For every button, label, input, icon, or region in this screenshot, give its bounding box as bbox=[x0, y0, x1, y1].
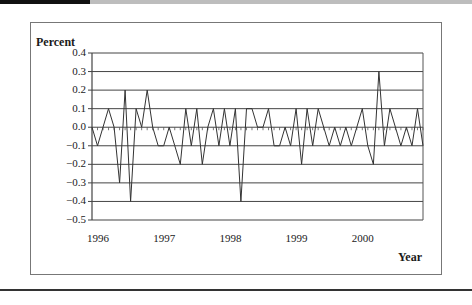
data-series-line bbox=[92, 72, 423, 202]
line-chart-plot bbox=[0, 0, 472, 305]
bottom-rule bbox=[0, 289, 472, 291]
